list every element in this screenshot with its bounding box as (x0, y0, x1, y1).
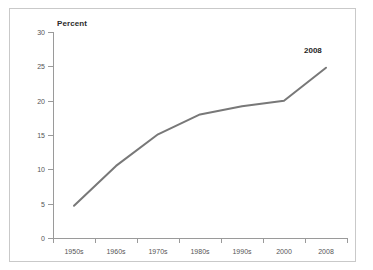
plot-area: 051015202530 1950s1960s1970s1980s1990s20… (0, 0, 373, 270)
endpoint-annotation-2008: 2008 (304, 46, 322, 55)
line-series-svg (0, 0, 373, 270)
line-series-path (74, 68, 326, 206)
